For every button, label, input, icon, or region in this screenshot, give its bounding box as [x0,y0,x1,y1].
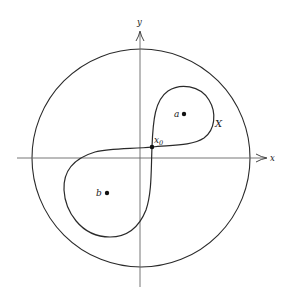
base-point-dot [150,145,155,150]
figure-eight-diagram: x0 a b X x y [0,0,291,300]
point-b-label: b [96,188,102,198]
point-a-label: a [174,109,179,119]
curve-label: X [214,118,223,129]
curve-x [64,86,214,237]
y-axis-label: y [136,17,142,27]
point-a-dot [182,112,186,116]
x-axis-label: x [270,153,275,163]
base-point-label: x0 [154,135,163,147]
point-b-dot [105,191,109,195]
